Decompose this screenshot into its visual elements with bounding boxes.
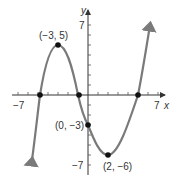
peak-point-label: (−3, 5) [39, 30, 68, 41]
point-minimum [105, 152, 111, 158]
y-max-label: 7 [79, 20, 85, 31]
x-axis-label: x [163, 100, 170, 111]
point-zero-2 [76, 92, 82, 98]
x-max-label: 7 [154, 100, 160, 111]
y-min-label: −7 [72, 160, 84, 171]
point-peak [55, 42, 61, 48]
y-intercept-label: (0, −3) [55, 120, 84, 131]
x-min-label: −7 [13, 100, 25, 111]
point-zero-3 [135, 92, 141, 98]
point-zero-1 [37, 92, 43, 98]
point-y-intercept [85, 122, 91, 128]
data-points [37, 42, 141, 158]
y-axis [88, 10, 91, 175]
y-axis-label: y [80, 5, 87, 16]
minimum-point-label: (2, −6) [103, 161, 132, 172]
graph: y 7 −7 −7 7 x (−3, 5) (0, −3) (2, −6) [0, 0, 180, 183]
